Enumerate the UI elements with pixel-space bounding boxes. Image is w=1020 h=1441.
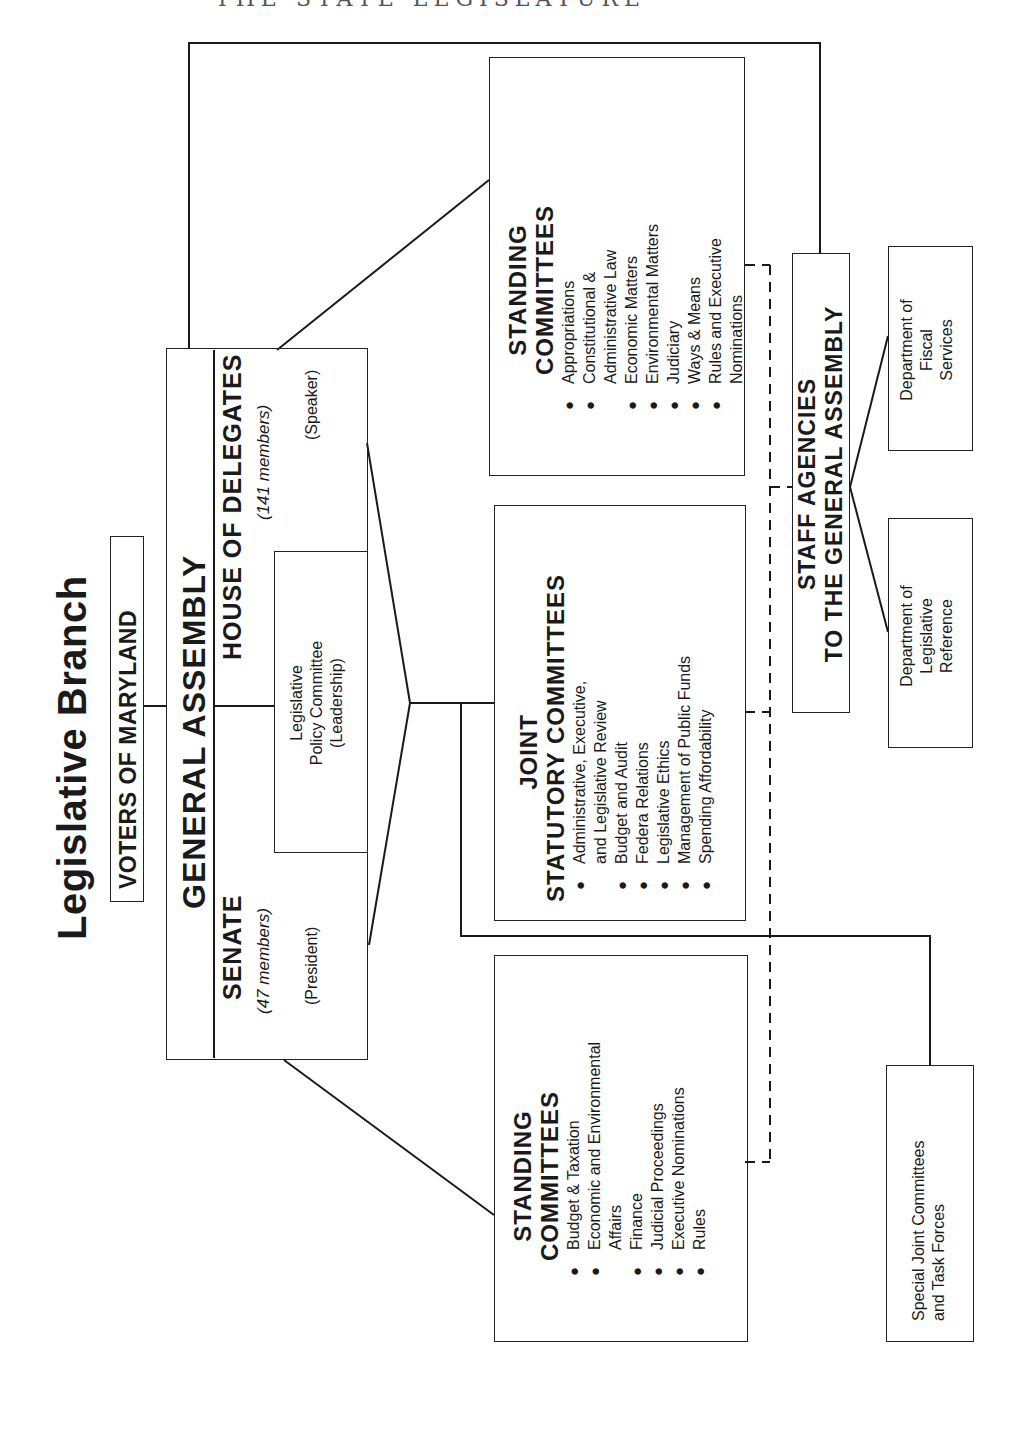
- committee-list-item: Constitutional &: [579, 170, 600, 410]
- committee-list-item: Federa Relations: [632, 602, 653, 890]
- committee-list-item: Ways & Means: [684, 170, 705, 410]
- house-standing-committees-box: STANDING COMMITTEES AppropriationsConsti…: [489, 57, 745, 476]
- fiscal-services-line1: Department of: [897, 275, 917, 425]
- committee-list-item: Affairs: [605, 1042, 626, 1276]
- senate-standing-committee-list: Budget & TaxationEconomic and Environmen…: [563, 1042, 710, 1276]
- senate-standing-committees-content: STANDING COMMITTEES Budget & TaxationEco…: [509, 1042, 710, 1276]
- joint-statutory-committees-content: JOINT STATUTORY COMMITTEES Administrativ…: [515, 602, 716, 902]
- page-title: Legislative Branch: [50, 575, 95, 940]
- voters-box: VOTERS OF MARYLAND: [110, 536, 144, 902]
- committee-list-item: Economic Matters: [621, 170, 642, 410]
- senate-name: SENATE: [218, 894, 247, 1000]
- committee-list-item: Spending Affordability: [695, 602, 716, 890]
- legislative-reference-label: Department of Legislative Reference: [897, 561, 957, 711]
- special-joint-committees-label: Special Joint Committees and Task Forces: [909, 1140, 949, 1321]
- committee-list-item: and Legislative Review: [590, 602, 611, 890]
- policy-committee-label: Legislative Policy Committee (Leadership…: [287, 618, 347, 788]
- staff-agencies-label: STAFF AGENCIES TO THE GENERAL ASSEMBLY: [794, 269, 848, 699]
- committee-list-item: Management of Public Funds: [674, 602, 695, 890]
- special-joint-line1: Special Joint Committees: [909, 1140, 929, 1321]
- joint-statutory-committee-list: Administrative, Executive,and Legislativ…: [569, 602, 716, 890]
- legislative-reference-box: Department of Legislative Reference: [888, 518, 973, 748]
- joint-title-line1: JOINT: [515, 602, 542, 902]
- legislative-reference-line3: Reference: [937, 561, 957, 711]
- special-joint-committees-box: Special Joint Committees and Task Forces: [886, 1065, 974, 1342]
- senate-members: (47 members): [254, 908, 274, 1014]
- policy-committee-line1: Legislative: [287, 618, 307, 788]
- joint-statutory-title: JOINT STATUTORY COMMITTEES: [515, 602, 569, 902]
- committee-list-item: Budget & Taxation: [563, 1042, 584, 1276]
- special-joint-line2: and Task Forces: [929, 1140, 949, 1321]
- policy-committee-box: Legislative Policy Committee (Leadership…: [274, 551, 368, 853]
- senate-standing-title-line1: STANDING: [509, 1076, 536, 1276]
- committee-list-item: Finance: [626, 1042, 647, 1276]
- legislative-reference-line1: Department of: [897, 561, 917, 711]
- voters-label: VOTERS OF MARYLAND: [115, 610, 142, 889]
- fiscal-services-line2: Fiscal: [917, 275, 937, 425]
- house-standing-committees-content: STANDING COMMITTEES AppropriationsConsti…: [504, 170, 747, 410]
- house-name: HOUSE OF DELEGATES: [218, 354, 247, 660]
- senate-standing-title: STANDING COMMITTEES: [509, 1076, 563, 1276]
- house-presiding: (Speaker): [303, 370, 321, 440]
- committee-list-item: Judicial Proceedings: [647, 1042, 668, 1276]
- house-standing-title-line1: STANDING: [504, 170, 531, 410]
- committee-list-item: Environmental Matters: [642, 170, 663, 410]
- staff-agencies-box: STAFF AGENCIES TO THE GENERAL ASSEMBLY: [792, 253, 850, 713]
- senate-standing-committees-box: STANDING COMMITTEES Budget & TaxationEco…: [494, 955, 748, 1342]
- senate-presiding: (President): [303, 927, 321, 1005]
- ga-divider: [213, 350, 215, 1058]
- fiscal-services-label: Department of Fiscal Services: [897, 275, 957, 425]
- committee-list-item: Economic and Environmental: [584, 1042, 605, 1276]
- fiscal-services-line3: Services: [937, 275, 957, 425]
- policy-committee-line2: Policy Committee: [307, 618, 327, 788]
- committee-list-item: Rules: [689, 1042, 710, 1276]
- staff-agencies-title-line1: STAFF AGENCIES: [794, 269, 821, 699]
- general-assembly-label: GENERAL ASSEMBLY: [176, 555, 213, 909]
- legislative-reference-line2: Legislative: [917, 561, 937, 711]
- committee-list-item: Appropriations: [558, 170, 579, 410]
- committee-list-item: Executive Nominations: [668, 1042, 689, 1276]
- house-members: (141 members): [254, 405, 274, 520]
- committee-list-item: Legislative Ethics: [653, 602, 674, 890]
- house-standing-title: STANDING COMMITTEES: [504, 170, 558, 410]
- house-standing-title-line2: COMMITTEES: [531, 170, 558, 410]
- committee-list-item: Nominations: [726, 170, 747, 410]
- senate-standing-title-line2: COMMITTEES: [536, 1076, 563, 1276]
- joint-statutory-committees-box: JOINT STATUTORY COMMITTEES Administrativ…: [494, 505, 746, 921]
- committee-list-item: Budget and Audit: [611, 602, 632, 890]
- committee-list-item: Rules and Executive: [705, 170, 726, 410]
- committee-list-item: Judiciary: [663, 170, 684, 410]
- staff-agencies-title-line2: TO THE GENERAL ASSEMBLY: [821, 269, 848, 699]
- joint-title-line2: STATUTORY COMMITTEES: [542, 602, 569, 902]
- house-standing-committee-list: AppropriationsConstitutional &Administra…: [558, 170, 747, 410]
- fiscal-services-box: Department of Fiscal Services: [888, 246, 973, 451]
- committee-list-item: Administrative Law: [600, 170, 621, 410]
- policy-committee-line3: (Leadership): [327, 618, 347, 788]
- committee-list-item: Administrative, Executive,: [569, 602, 590, 890]
